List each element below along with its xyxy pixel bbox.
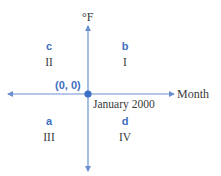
y-axis-label: °F	[82, 10, 94, 24]
quadrant-1-letter: b	[122, 40, 129, 52]
quadrant-2-numeral: II	[45, 56, 53, 68]
quadrant-3-letter: a	[46, 115, 53, 127]
origin-caption: January 2000	[93, 98, 155, 111]
quadrant-4-letter: d	[122, 115, 129, 127]
origin-label: (0, 0)	[55, 79, 81, 91]
x-axis-label: Month	[177, 87, 209, 101]
coordinate-plane-diagram: °F Month (0, 0) January 2000 b I c II a …	[0, 0, 221, 176]
diagram-svg: °F Month (0, 0) January 2000 b I c II a …	[0, 0, 221, 176]
origin-dot	[84, 90, 91, 97]
quadrant-2-letter: c	[46, 40, 52, 52]
quadrant-3-numeral: III	[43, 131, 55, 143]
quadrant-1-numeral: I	[123, 56, 127, 68]
quadrant-4-numeral: IV	[119, 131, 132, 143]
